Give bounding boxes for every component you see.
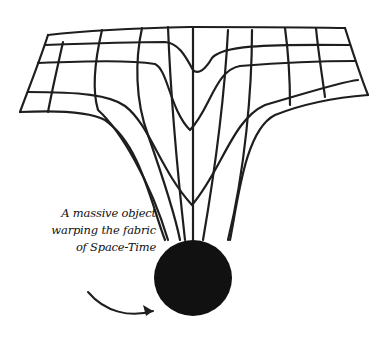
curved-arrow-icon: [88, 292, 153, 316]
mass-sphere: [154, 240, 232, 316]
diagram-caption: A massive object warping the fabric of S…: [38, 205, 156, 256]
caption-line-1: A massive object: [38, 205, 156, 222]
caption-line-2: warping the fabric: [38, 222, 156, 239]
diagram-svg: [0, 0, 388, 347]
spacetime-diagram: A massive object warping the fabric of S…: [0, 0, 388, 347]
caption-line-3: of Space-Time: [38, 239, 156, 256]
